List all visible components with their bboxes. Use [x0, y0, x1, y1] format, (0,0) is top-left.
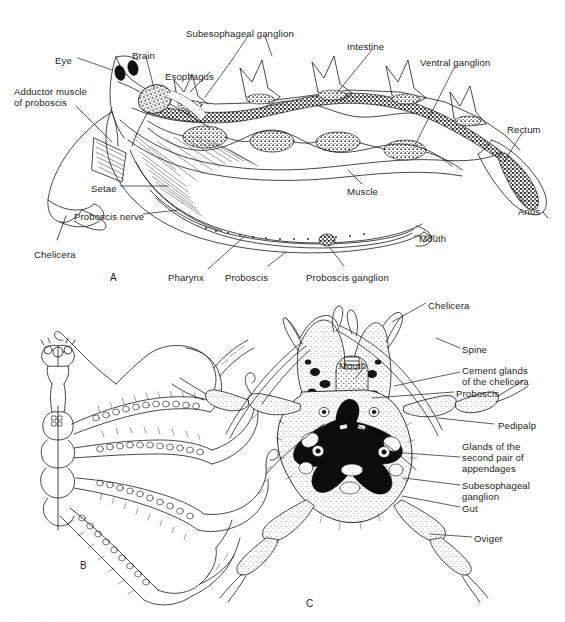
label-subesophageal-ganglion: Subesophageal ganglion [186, 28, 294, 39]
label-proboscis: Proboscis [225, 272, 268, 283]
label-oviger: Oviger [474, 533, 503, 544]
label-ventral-ganglion: Ventral ganglion [420, 57, 490, 68]
panel-letter-c: C [306, 598, 314, 609]
panel-a-drawing [48, 56, 548, 253]
label-pedipalp: Pedipalp [498, 420, 536, 431]
proboscis-ganglion-mass [319, 234, 335, 246]
label-intestine: Intestine [347, 41, 384, 52]
label-setae: Setae [91, 183, 117, 194]
label-proboscis-ganglion: Proboscis ganglion [306, 272, 389, 283]
panel-letter-a: A [110, 272, 117, 283]
label-muscle: Muscle [347, 186, 378, 197]
clipped-caption-text: .... ... ...... ........... [4, 615, 80, 622]
eye-spot-left [113, 65, 126, 82]
label-subesophageal-ganglion-c: Subesophageal ganglion [462, 480, 530, 502]
label-mouth-a: Mouth [419, 233, 446, 244]
label-glands-of-the-second-pair-of-appendages: Glands of the second pair of appendages [462, 441, 524, 474]
label-adductor-muscle-of-proboscis: Adductor muscle of proboscis [14, 86, 87, 108]
label-brain: Brain [132, 50, 155, 61]
label-rectum: Rectum [507, 124, 541, 135]
eye-spot-right [126, 60, 139, 77]
label-eye: Eye [55, 55, 72, 66]
label-chelicera-c: Chelicera [428, 300, 469, 311]
panel-a-leaders [76, 36, 524, 269]
label-chelicera: Chelicera [34, 249, 75, 260]
label-cement-glands-of-the-chelicera: Cement glands of the chelicera [462, 365, 529, 387]
label-anus: Anus [518, 206, 540, 217]
label-proboscis-c: Proboscis [456, 388, 499, 399]
label-esophagus: Esophagus [165, 71, 214, 82]
label-mouth-c: Mouth [339, 360, 366, 371]
label-proboscis-nerve: Proboscis nerve [74, 211, 144, 222]
label-gut: Gut [462, 503, 478, 514]
panel-letter-b: B [80, 560, 87, 571]
label-pharynx: Pharynx [168, 272, 204, 283]
label-spine: Spine [462, 344, 487, 355]
